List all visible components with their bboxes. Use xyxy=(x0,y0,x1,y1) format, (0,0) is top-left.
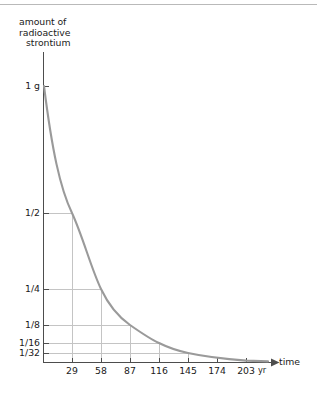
decay-chart-svg xyxy=(0,0,317,397)
y-axis-title-line-1: amount of xyxy=(19,17,70,28)
x-axis-title: time xyxy=(279,357,300,367)
x-tick-label-29: 29 xyxy=(66,366,78,376)
decay-curve xyxy=(44,86,268,361)
y-axis-ticks xyxy=(44,87,50,354)
y-tick-label-1-2: 1/2 xyxy=(8,208,40,218)
y-tick-label-1-8: 1/8 xyxy=(8,320,40,330)
x-tick-label-174: 174 xyxy=(208,366,226,376)
guide-line-thirtysecond xyxy=(44,354,189,363)
x-axis-unit-label: yr xyxy=(258,366,266,375)
y-axis-title-line-3: strontium xyxy=(19,38,70,49)
x-tick-label-58: 58 xyxy=(95,366,107,376)
y-tick-label-1-32: 1/32 xyxy=(6,348,40,358)
x-tick-label-145: 145 xyxy=(179,366,197,376)
y-tick-label-1g: 1 g xyxy=(8,81,40,91)
y-tick-label-1-4: 1/4 xyxy=(8,284,40,294)
guide-lines xyxy=(44,214,189,363)
x-tick-label-87: 87 xyxy=(124,366,136,376)
x-tick-label-116: 116 xyxy=(150,366,168,376)
x-tick-label-203: 203 xyxy=(237,366,255,376)
y-axis-title: amount of radioactive strontium xyxy=(19,17,70,49)
figure-page: amount of radioactive strontium 1 g 1/2 … xyxy=(0,0,317,397)
guide-line-half xyxy=(44,214,73,363)
